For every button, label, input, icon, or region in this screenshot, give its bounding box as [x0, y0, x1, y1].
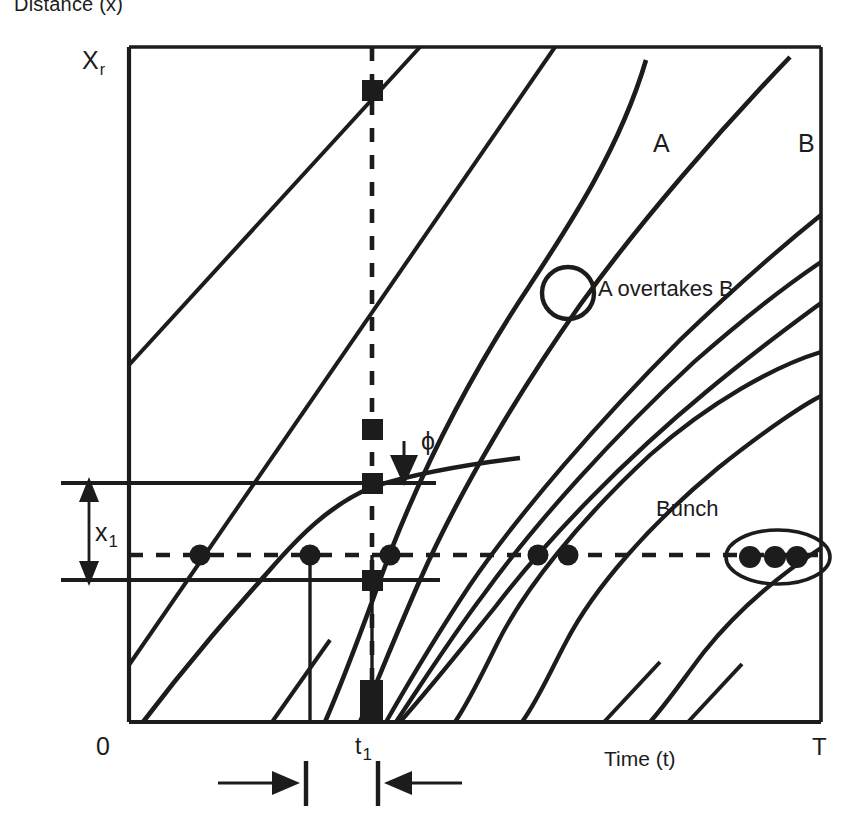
interval-right-arrowhead [384, 771, 412, 795]
circle-marker-bunch-1 [739, 546, 761, 568]
x1-arrowhead-up [79, 477, 99, 502]
x1-arrowhead-down [79, 561, 99, 586]
trajectory-line-2 [129, 47, 555, 665]
square-marker-t1-ref-low [362, 570, 383, 591]
square-marker-t1-upper [362, 419, 383, 440]
circle-marker-bunch-3 [786, 546, 808, 568]
trajectory-7 [400, 303, 821, 722]
trajectory-plot-svg [0, 0, 857, 830]
interval-left-arrowhead [272, 771, 300, 795]
square-marker-t1-bottom-b [360, 703, 383, 722]
circle-marker-1 [190, 545, 211, 566]
trajectory-stub-1 [272, 640, 330, 722]
circle-marker-3 [380, 545, 401, 566]
trajectory-stub-2 [604, 662, 660, 722]
trajectory-curve-3 [143, 458, 520, 722]
circle-marker-bunch-2 [764, 546, 786, 568]
circle-marker-4 [528, 545, 549, 566]
square-marker-t1-bottom-a [360, 680, 383, 703]
figure-root: Distance (x) Xr 0 t1 T Time (t) x1 A B A… [0, 0, 857, 830]
square-marker-t1-top [362, 80, 383, 101]
trajectory-stub-3 [688, 664, 742, 722]
circle-marker-2 [300, 545, 321, 566]
circle-marker-5 [558, 545, 579, 566]
